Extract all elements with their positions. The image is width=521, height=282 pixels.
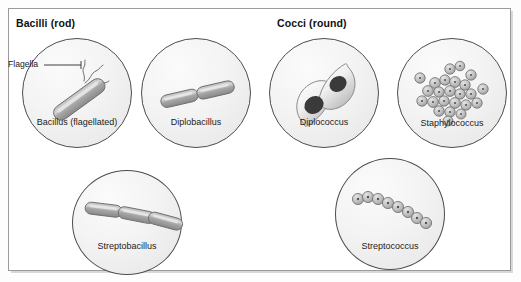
diplococcus-illustration <box>270 39 380 149</box>
panel-label-streptococcus: Streptococcus <box>336 241 444 251</box>
group-heading-bacilli: Bacilli (rod) <box>16 17 75 29</box>
panel-label-bacillus: Bacillus (flagellated) <box>23 117 131 127</box>
panel-diplobacillus[interactable]: Diplobacillus <box>141 38 251 148</box>
staphylococcus-illustration <box>398 39 508 149</box>
panel-staphylococcus[interactable]: Staphylococcus <box>397 38 507 148</box>
panel-label-diplobacillus: Diplobacillus <box>142 117 250 127</box>
streptococcus-illustration <box>336 159 446 271</box>
streptobacillus-rod-chain <box>84 201 184 231</box>
bacteria-shapes-figure: Bacilli (rod) Cocci (round) <box>0 0 521 282</box>
staphylococcus-cluster <box>415 61 488 126</box>
panel-streptobacillus[interactable]: Streptobacillus <box>72 170 182 275</box>
bacillus-illustration <box>23 39 133 149</box>
streptococcus-chain <box>352 191 431 228</box>
diplobacillus-illustration <box>142 39 252 149</box>
diplobacillus-rod-pair <box>160 80 236 109</box>
panel-label-staphylococcus: Staphylococcus <box>398 118 506 128</box>
panel-diplococcus[interactable]: Diplococcus <box>269 38 379 148</box>
panel-bacillus[interactable]: Flagella Bacillus (flagellated) <box>22 38 132 148</box>
panel-label-diplococcus: Diplococcus <box>270 117 378 127</box>
streptobacillus-illustration <box>73 171 183 276</box>
bacillus-rod <box>51 76 108 123</box>
group-heading-cocci: Cocci (round) <box>277 17 347 29</box>
panel-label-streptobacillus: Streptobacillus <box>73 241 181 251</box>
panel-streptococcus[interactable]: Streptococcus <box>335 158 445 270</box>
flagella-leader-line <box>44 61 81 69</box>
flagella-callout-label: Flagella <box>8 59 38 69</box>
